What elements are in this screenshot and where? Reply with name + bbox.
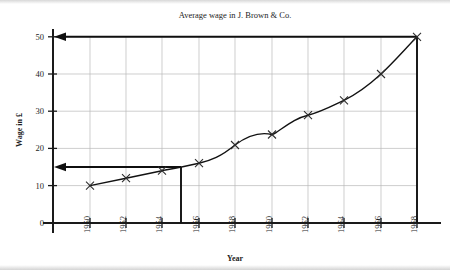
y-tick-labels: 0 10 20 30 40 50 bbox=[36, 32, 45, 228]
x-tick-label-1952: 1952 bbox=[118, 216, 128, 233]
y-tick-label-30: 30 bbox=[36, 106, 45, 116]
annotation-readoff-1968 bbox=[54, 33, 417, 223]
chart-title: Average wage in J. Brown & Co. bbox=[179, 10, 292, 20]
annotation-arrowhead-15 bbox=[54, 163, 66, 171]
x-tick-label-1966: 1966 bbox=[373, 216, 383, 233]
axes bbox=[44, 30, 440, 232]
gridlines bbox=[53, 37, 417, 223]
annotation-arrowhead-50 bbox=[54, 33, 66, 41]
x-tick-labels: 1950 1952 1954 1956 1958 1960 1962 1964 … bbox=[82, 215, 419, 233]
x-tick-label-1950: 1950 bbox=[82, 216, 92, 233]
y-axis-title: Wage in £ bbox=[15, 113, 24, 147]
x-tick-label-1964: 1964 bbox=[336, 215, 346, 233]
x-axis-title: Year bbox=[227, 254, 243, 263]
y-tick-label-0: 0 bbox=[40, 218, 44, 228]
x-tick-label-1962: 1962 bbox=[300, 216, 310, 233]
y-tick-label-40: 40 bbox=[36, 69, 45, 79]
x-tick-label-1960: 1960 bbox=[264, 216, 274, 233]
chart-page: Average wage in J. Brown & Co. Wage in £… bbox=[0, 0, 450, 270]
y-tick-label-20: 20 bbox=[36, 143, 45, 153]
y-tick-label-10: 10 bbox=[36, 181, 45, 191]
x-tick-label-1958: 1958 bbox=[227, 216, 237, 233]
line-chart: Average wage in J. Brown & Co. Wage in £… bbox=[0, 0, 450, 270]
x-tick-label-1956: 1956 bbox=[191, 216, 201, 233]
y-tick-label-50: 50 bbox=[36, 32, 45, 42]
x-tick-label-1954: 1954 bbox=[154, 215, 164, 233]
x-tick-label-1968: 1968 bbox=[409, 216, 419, 233]
